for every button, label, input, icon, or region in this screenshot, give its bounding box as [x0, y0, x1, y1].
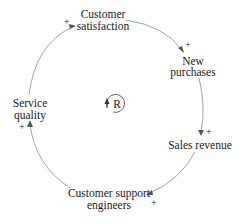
link-satisfaction-to-purchases	[126, 20, 182, 50]
node-customer-satisfaction-line1: Customer	[81, 8, 126, 20]
polarity-plus: +	[19, 121, 25, 132]
link-purchases-to-revenue	[199, 78, 203, 133]
polarity-plus: +	[151, 197, 157, 208]
causal-loop-diagram: + + + + + Customer satisfaction New purc…	[0, 0, 243, 224]
node-customer-support-engineers-line2: engineers	[87, 199, 132, 212]
arrowhead-icon	[27, 120, 33, 127]
node-service-quality-line2: quality	[14, 109, 46, 122]
loop-label: R	[113, 98, 121, 110]
node-sales-revenue: Sales revenue	[168, 139, 232, 151]
reinforcing-loop-icon: R	[105, 94, 125, 112]
link-revenue-to-support	[150, 152, 195, 193]
arrowhead-icon	[198, 130, 204, 136]
arrowhead-icon	[178, 46, 184, 53]
link-quality-to-satisfaction	[29, 27, 72, 95]
polarity-plus: +	[206, 126, 212, 137]
polarity-plus: +	[185, 39, 191, 50]
link-support-to-quality	[30, 124, 70, 188]
node-service-quality-line1: Service	[13, 97, 47, 109]
node-new-purchases-line2: purchases	[170, 66, 216, 79]
node-customer-satisfaction-line2: satisfaction	[77, 20, 130, 32]
arrowhead-icon	[69, 24, 76, 29]
polarity-plus: +	[64, 16, 70, 27]
